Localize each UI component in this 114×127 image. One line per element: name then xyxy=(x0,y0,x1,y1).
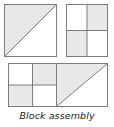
assembly-patch-bottom-right xyxy=(33,85,57,107)
figure-caption: Block assembly xyxy=(0,110,114,122)
assembled-block-svg xyxy=(8,63,108,107)
half-square-triangle-svg xyxy=(4,4,57,57)
assembly-patch-bottom-left xyxy=(9,85,33,107)
assembly-patch-top-left xyxy=(9,64,33,86)
block-assembly-figure: Block assembly xyxy=(0,0,114,127)
assembled-block xyxy=(8,63,108,107)
four-patch-block xyxy=(66,4,108,57)
four-patch-svg xyxy=(66,4,108,57)
assembly-patch-top-right xyxy=(33,64,57,86)
patch-top-left xyxy=(67,5,88,31)
patch-bottom-left xyxy=(67,31,88,57)
patch-top-right xyxy=(87,5,108,31)
patch-bottom-right xyxy=(87,31,108,57)
half-square-triangle-block xyxy=(4,4,57,57)
